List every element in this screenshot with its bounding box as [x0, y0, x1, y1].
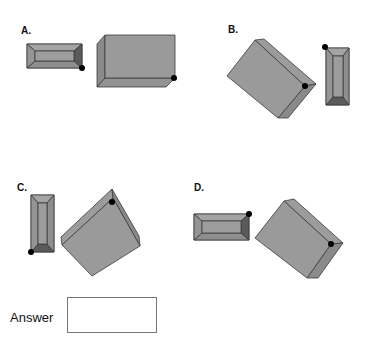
option-c-box [61, 189, 140, 276]
option-b-box-dot [302, 83, 308, 89]
option-a-box-dot [171, 75, 177, 81]
option-a-box [97, 35, 177, 87]
option-b-frame-dot [322, 44, 328, 50]
option-d[interactable] [194, 199, 343, 278]
option-a-frame [27, 44, 85, 71]
option-c-frame-dot [28, 249, 34, 255]
option-c-box-dot [109, 199, 115, 205]
option-b[interactable] [227, 39, 349, 118]
option-d-box-dot [328, 241, 334, 247]
option-d-frame [194, 211, 252, 240]
answer-label: Answer [10, 310, 53, 325]
option-a-frame-dot [79, 65, 85, 71]
option-c-frame [28, 195, 54, 255]
figures [0, 0, 368, 337]
option-c[interactable] [28, 189, 140, 276]
option-a[interactable] [27, 35, 177, 87]
answer-input[interactable] [67, 297, 157, 333]
option-b-frame [322, 44, 349, 105]
option-b-box [227, 39, 316, 118]
option-d-frame-dot [246, 211, 252, 217]
option-d-box [255, 199, 343, 278]
